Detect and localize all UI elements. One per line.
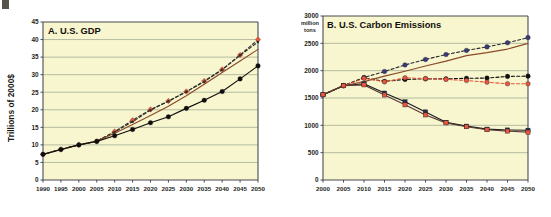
data-point-marker bbox=[41, 152, 46, 157]
chart-panel-emissions: 050010001500200025003000 200020052010201… bbox=[280, 0, 551, 217]
svg-text:5: 5 bbox=[35, 159, 39, 166]
data-point-marker bbox=[382, 69, 387, 74]
data-point-marker bbox=[485, 76, 490, 81]
panel-title-gdp: A. U.S. GDP bbox=[48, 26, 101, 36]
svg-text:35: 35 bbox=[31, 53, 39, 60]
svg-text:2000: 2000 bbox=[316, 185, 330, 192]
data-point-marker bbox=[362, 76, 367, 81]
y-axis-title: Trillions of 2000$ bbox=[6, 74, 16, 142]
svg-text:2050: 2050 bbox=[251, 185, 265, 192]
svg-text:2045: 2045 bbox=[501, 185, 515, 192]
data-point-marker bbox=[444, 52, 449, 57]
y-axis-tick-labels: 051015202530354045 bbox=[31, 18, 39, 183]
svg-text:10: 10 bbox=[31, 141, 39, 148]
data-point-marker bbox=[423, 76, 428, 81]
data-point-marker bbox=[130, 127, 135, 132]
data-point-marker bbox=[464, 78, 469, 83]
data-point-marker bbox=[77, 143, 82, 148]
svg-text:30: 30 bbox=[31, 71, 39, 78]
y-axis-tick-labels: 050010001500200025003000 bbox=[304, 12, 319, 183]
data-point-marker bbox=[202, 98, 207, 103]
data-point-marker bbox=[341, 84, 345, 88]
data-point-marker bbox=[444, 121, 448, 125]
svg-text:25: 25 bbox=[31, 89, 39, 96]
x-axis-tick-labels: 1990199520002005201020152020202520302035… bbox=[36, 185, 265, 192]
data-point-marker bbox=[148, 120, 153, 125]
svg-text:2025: 2025 bbox=[419, 185, 433, 192]
data-point-marker bbox=[112, 133, 117, 138]
data-point-marker bbox=[423, 113, 427, 117]
svg-text:2035: 2035 bbox=[197, 185, 211, 192]
data-point-marker bbox=[526, 81, 531, 86]
svg-text:2010: 2010 bbox=[108, 185, 122, 192]
data-point-marker bbox=[94, 139, 99, 144]
data-point-marker bbox=[526, 130, 530, 134]
svg-text:2500: 2500 bbox=[304, 40, 319, 47]
svg-text:0: 0 bbox=[35, 176, 39, 183]
svg-text:1990: 1990 bbox=[36, 185, 50, 192]
svg-text:1500: 1500 bbox=[304, 94, 319, 101]
svg-text:0: 0 bbox=[315, 176, 319, 183]
data-point-marker bbox=[505, 74, 510, 79]
data-point-marker bbox=[256, 64, 261, 69]
svg-text:2030: 2030 bbox=[439, 185, 453, 192]
data-point-marker bbox=[403, 63, 408, 68]
data-point-marker bbox=[131, 120, 134, 123]
svg-text:2045: 2045 bbox=[233, 185, 247, 192]
svg-text:2005: 2005 bbox=[337, 185, 351, 192]
svg-text:1995: 1995 bbox=[54, 185, 68, 192]
data-point-marker bbox=[221, 69, 224, 72]
svg-text:2000: 2000 bbox=[304, 67, 319, 74]
data-point-marker bbox=[485, 128, 489, 132]
svg-text:20: 20 bbox=[31, 106, 39, 113]
data-point-marker bbox=[382, 80, 387, 85]
data-point-marker bbox=[382, 93, 386, 97]
data-point-marker bbox=[485, 80, 490, 85]
data-point-marker bbox=[464, 48, 469, 53]
svg-text:45: 45 bbox=[31, 18, 39, 25]
svg-text:2030: 2030 bbox=[179, 185, 193, 192]
data-point-marker bbox=[166, 115, 171, 120]
plot-background bbox=[43, 22, 258, 180]
svg-text:2040: 2040 bbox=[480, 185, 494, 192]
data-point-marker bbox=[362, 83, 366, 87]
svg-text:15: 15 bbox=[31, 124, 39, 131]
x-axis-tick-labels: 2000200520102015202020252030203520402045… bbox=[316, 185, 535, 192]
data-point-marker bbox=[505, 81, 510, 86]
data-point-marker bbox=[220, 89, 225, 94]
data-point-marker bbox=[184, 106, 189, 111]
data-point-marker bbox=[423, 57, 428, 62]
data-point-marker bbox=[403, 103, 407, 107]
svg-text:2035: 2035 bbox=[460, 185, 474, 192]
data-point-marker bbox=[149, 109, 152, 112]
data-point-marker bbox=[321, 93, 325, 97]
panel-title-emissions: B. U.S. Carbon Emissions bbox=[327, 20, 441, 30]
svg-text:2020: 2020 bbox=[144, 185, 158, 192]
data-point-marker bbox=[167, 100, 170, 103]
svg-text:2005: 2005 bbox=[90, 185, 104, 192]
data-point-marker bbox=[485, 45, 490, 50]
data-point-marker bbox=[505, 129, 509, 133]
y-axis-unit-label: milliontons bbox=[301, 20, 320, 33]
svg-text:2020: 2020 bbox=[398, 185, 412, 192]
data-point-marker bbox=[238, 77, 243, 82]
gdp-chart-svg: 051015202530354045 199019952000200520102… bbox=[0, 0, 280, 217]
data-point-marker bbox=[59, 147, 64, 152]
svg-text:2000: 2000 bbox=[72, 185, 86, 192]
data-point-marker bbox=[203, 80, 206, 83]
data-point-marker bbox=[403, 75, 408, 80]
svg-text:500: 500 bbox=[308, 149, 319, 156]
data-point-marker bbox=[526, 74, 531, 79]
chart-panel-gdp: 051015202530354045 199019952000200520102… bbox=[0, 0, 280, 217]
data-point-marker bbox=[505, 40, 510, 45]
data-point-marker bbox=[464, 125, 468, 129]
svg-text:2015: 2015 bbox=[126, 185, 140, 192]
svg-text:40: 40 bbox=[31, 36, 39, 43]
svg-text:2040: 2040 bbox=[215, 185, 229, 192]
emissions-chart-svg: 050010001500200025003000 200020052010201… bbox=[280, 0, 551, 217]
svg-text:2050: 2050 bbox=[521, 185, 535, 192]
svg-text:2010: 2010 bbox=[357, 185, 371, 192]
svg-text:2015: 2015 bbox=[378, 185, 392, 192]
data-point-marker bbox=[526, 35, 531, 40]
svg-text:3000: 3000 bbox=[304, 12, 319, 19]
